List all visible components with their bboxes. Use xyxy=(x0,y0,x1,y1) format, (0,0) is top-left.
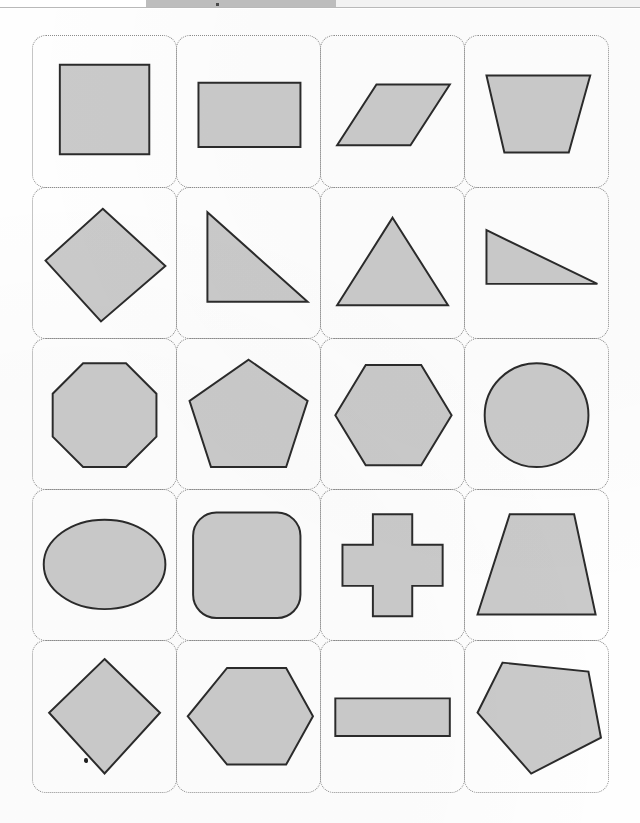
shape-circle: Circle xyxy=(465,339,608,490)
shape-path-cross: Cross (plus) xyxy=(342,514,442,616)
top-browser-chrome-strip xyxy=(0,0,640,9)
grid-cell-square[interactable]: Square xyxy=(32,35,177,188)
shape-svg-rhombus-square-rotated: Rotated square (diamond) xyxy=(33,188,176,339)
grid-cell-rhombus-tall[interactable]: Rhombus xyxy=(32,640,177,793)
shape-path-isosceles-triangle: Isosceles triangle xyxy=(337,217,448,305)
shape-path-pentagon-rotated: Rotated pentagon xyxy=(477,663,600,774)
grid-cell-circle[interactable]: Circle xyxy=(464,338,609,491)
shape-rounded-square: Rounded square xyxy=(177,490,320,641)
shape-grid: SquareRectangleParallelogramTrapezoid (w… xyxy=(33,36,608,792)
shape-svg-pentagon: Pentagon xyxy=(177,339,320,490)
shape-path-trapezoid-wide-base: Trapezoid (wide base) xyxy=(477,514,595,614)
shape-path-thin-rectangle: Thin rectangle xyxy=(335,699,450,737)
shape-path-hexagon: Hexagon xyxy=(335,365,451,465)
shape-svg-hexagon-wide: Wide hexagon xyxy=(177,641,320,792)
shape-trapezoid-wide-base: Trapezoid (wide base) xyxy=(465,490,608,641)
grid-cell-parallelogram[interactable]: Parallelogram xyxy=(320,35,465,188)
grid-cell-trapezoid-wide-top[interactable]: Trapezoid (wide top) xyxy=(464,35,609,188)
shape-svg-square: Square xyxy=(33,36,176,187)
shape-cross: Cross (plus) xyxy=(321,490,464,641)
shape-svg-octagon: Octagon xyxy=(33,339,176,490)
grid-cell-octagon[interactable]: Octagon xyxy=(32,338,177,491)
grid-cell-isosceles-triangle[interactable]: Isosceles triangle xyxy=(320,187,465,340)
shape-svg-thin-rectangle: Thin rectangle xyxy=(321,641,464,792)
grid-cell-rhombus-square-rotated[interactable]: Rotated square (diamond) xyxy=(32,187,177,340)
grid-cell-pentagon[interactable]: Pentagon xyxy=(176,338,321,491)
shape-svg-pentagon-rotated: Rotated pentagon xyxy=(465,641,608,792)
grid-cell-right-triangle-tall[interactable]: Right triangle xyxy=(176,187,321,340)
shape-thin-rectangle: Thin rectangle xyxy=(321,641,464,792)
grid-cell-trapezoid-wide-base[interactable]: Trapezoid (wide base) xyxy=(464,489,609,642)
shape-right-triangle-flat: Flat right triangle xyxy=(465,188,608,339)
grid-cell-rounded-square[interactable]: Rounded square xyxy=(176,489,321,642)
shape-path-trapezoid-wide-top: Trapezoid (wide top) xyxy=(486,76,590,153)
grid-cell-thin-rectangle[interactable]: Thin rectangle xyxy=(320,640,465,793)
shape-svg-hexagon: Hexagon xyxy=(321,339,464,490)
shape-octagon: Octagon xyxy=(33,339,176,490)
ink-speck xyxy=(84,758,88,763)
shape-path-right-triangle-flat: Flat right triangle xyxy=(486,230,597,284)
shape-path-pentagon: Pentagon xyxy=(190,359,308,466)
shape-path-hexagon-wide: Wide hexagon xyxy=(188,668,313,765)
grid-cell-hexagon[interactable]: Hexagon xyxy=(320,338,465,491)
shape-rectangle: Rectangle xyxy=(177,36,320,187)
grid-cell-hexagon-wide[interactable]: Wide hexagon xyxy=(176,640,321,793)
shape-path-circle: Circle xyxy=(484,363,588,467)
shape-path-rectangle: Rectangle xyxy=(199,83,301,147)
shape-path-rhombus-tall: Rhombus xyxy=(49,659,160,774)
shape-hexagon: Hexagon xyxy=(321,339,464,490)
grid-cell-right-triangle-flat[interactable]: Flat right triangle xyxy=(464,187,609,340)
shape-svg-cross: Cross (plus) xyxy=(321,490,464,641)
shape-svg-parallelogram: Parallelogram xyxy=(321,36,464,187)
shape-svg-ellipse: Ellipse xyxy=(33,490,176,641)
shape-path-right-triangle-tall: Right triangle xyxy=(207,212,307,301)
grid-cell-rectangle[interactable]: Rectangle xyxy=(176,35,321,188)
shape-svg-trapezoid-wide-base: Trapezoid (wide base) xyxy=(465,490,608,641)
shape-isosceles-triangle: Isosceles triangle xyxy=(321,188,464,339)
shape-pentagon: Pentagon xyxy=(177,339,320,490)
shape-svg-circle: Circle xyxy=(465,339,608,490)
shape-parallelogram: Parallelogram xyxy=(321,36,464,187)
grid-cell-cross[interactable]: Cross (plus) xyxy=(320,489,465,642)
shape-path-rhombus-square-rotated: Rotated square (diamond) xyxy=(46,208,166,321)
chrome-toolbar-area xyxy=(336,0,640,7)
shape-svg-rectangle: Rectangle xyxy=(177,36,320,187)
shape-path-ellipse: Ellipse xyxy=(44,520,166,609)
shape-path-octagon: Octagon xyxy=(53,363,157,467)
shape-svg-isosceles-triangle: Isosceles triangle xyxy=(321,188,464,339)
shape-rhombus-square-rotated: Rotated square (diamond) xyxy=(33,188,176,339)
chrome-tab-marker-icon xyxy=(216,3,219,6)
shape-svg-right-triangle-tall: Right triangle xyxy=(177,188,320,339)
worksheet-page: SquareRectangleParallelogramTrapezoid (w… xyxy=(0,9,640,823)
shape-trapezoid-wide-top: Trapezoid (wide top) xyxy=(465,36,608,187)
grid-cell-ellipse[interactable]: Ellipse xyxy=(32,489,177,642)
chrome-bottom-rule xyxy=(0,7,640,8)
shape-rhombus-tall: Rhombus xyxy=(33,641,176,792)
shape-hexagon-wide: Wide hexagon xyxy=(177,641,320,792)
shape-right-triangle-tall: Right triangle xyxy=(177,188,320,339)
shape-svg-rounded-square: Rounded square xyxy=(177,490,320,641)
shape-path-parallelogram: Parallelogram xyxy=(337,85,450,146)
shape-path-square: Square xyxy=(60,65,149,154)
shape-svg-trapezoid-wide-top: Trapezoid (wide top) xyxy=(465,36,608,187)
grid-cell-pentagon-rotated[interactable]: Rotated pentagon xyxy=(464,640,609,793)
shape-ellipse: Ellipse xyxy=(33,490,176,641)
shape-pentagon-rotated: Rotated pentagon xyxy=(465,641,608,792)
shape-svg-rhombus-tall: Rhombus xyxy=(33,641,176,792)
shape-path-rounded-square: Rounded square xyxy=(193,512,300,618)
shape-square: Square xyxy=(33,36,176,187)
shape-svg-right-triangle-flat: Flat right triangle xyxy=(465,188,608,339)
